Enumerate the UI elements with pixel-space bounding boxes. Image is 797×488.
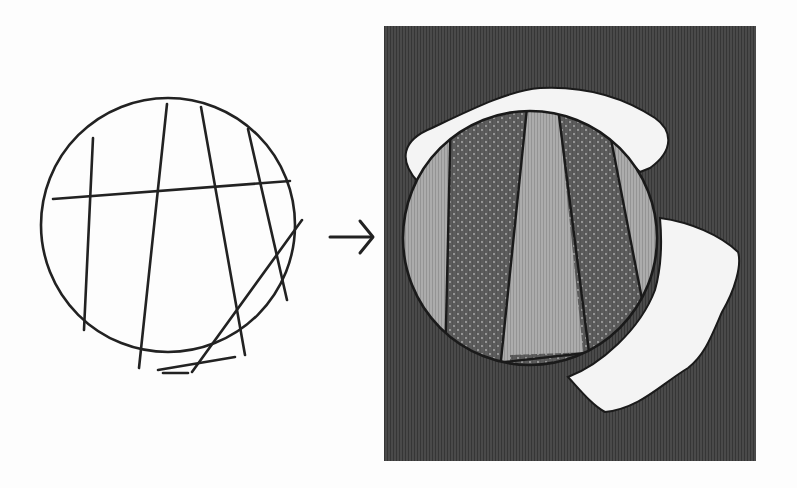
right-panel: [384, 26, 756, 461]
arrow-icon: [330, 221, 373, 253]
left-circle: [41, 98, 295, 352]
chord-1: [84, 138, 93, 330]
chord-4: [248, 129, 287, 300]
left-panel: [41, 98, 302, 373]
chord-2: [139, 104, 167, 368]
chord-7: [158, 357, 235, 370]
chord-5: [53, 181, 290, 199]
figure-canvas: [0, 0, 797, 488]
chord-3: [201, 107, 245, 355]
figure: Same circle with regions filled by alter…: [0, 0, 797, 488]
